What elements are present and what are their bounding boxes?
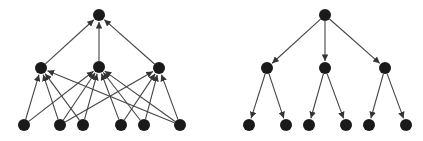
node-m1 xyxy=(35,62,47,74)
node-m3 xyxy=(153,62,165,74)
node-l4 xyxy=(340,119,352,131)
edge-c3-to-l5 xyxy=(371,74,383,118)
node-l1 xyxy=(243,119,255,131)
edge-c1-to-l2 xyxy=(269,74,284,119)
edge-c3-to-l6 xyxy=(387,74,404,119)
node-l3 xyxy=(303,119,315,131)
edge-b1-to-m1 xyxy=(26,75,39,120)
node-c3 xyxy=(379,62,391,74)
edge-root-to-c1 xyxy=(272,19,320,63)
node-b1 xyxy=(18,119,30,131)
converging-graph xyxy=(18,9,186,131)
node-b3 xyxy=(77,119,89,131)
edge-c2-to-l4 xyxy=(327,74,344,119)
node-b6 xyxy=(174,119,186,131)
node-b2 xyxy=(54,119,66,131)
node-b5 xyxy=(138,119,150,131)
edge-m3-to-top xyxy=(104,20,154,64)
edge-b3-to-m2 xyxy=(85,74,98,119)
node-l5 xyxy=(363,119,375,131)
node-l6 xyxy=(400,119,412,131)
node-l2 xyxy=(280,119,292,131)
edge-c1-to-l1 xyxy=(251,74,265,119)
node-m2 xyxy=(93,61,105,73)
edge-m1-to-top xyxy=(45,20,93,64)
edge-root-to-c3 xyxy=(329,19,379,63)
edge-c2-to-l3 xyxy=(311,74,323,118)
tree-graph xyxy=(243,9,412,131)
node-root xyxy=(319,9,331,21)
node-c1 xyxy=(261,62,273,74)
diagram-canvas xyxy=(0,0,423,141)
node-c2 xyxy=(319,62,331,74)
edge-b1-to-m2 xyxy=(29,71,94,121)
edge-b6-to-m3 xyxy=(161,75,178,120)
node-b4 xyxy=(115,119,127,131)
edge-b5-to-m3 xyxy=(146,75,158,119)
node-top xyxy=(93,9,105,21)
